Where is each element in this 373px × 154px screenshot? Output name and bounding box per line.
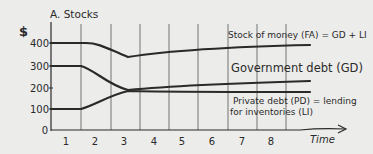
x-axis-label: Time <box>310 134 335 145</box>
x-tick: 4 <box>151 136 157 147</box>
x-tick: 8 <box>268 136 274 147</box>
y-tick: 400 <box>30 38 49 49</box>
fa-annotation: Stock of money (FA) = GD + LI <box>228 30 367 40</box>
series-fa-line <box>51 43 310 57</box>
pd-annotation-line2: for inventories (LI) <box>230 107 313 117</box>
x-tick: 6 <box>209 136 215 147</box>
stocks-chart: A. Stocks $ 400 300 200 100 0 1 2 3 4 5 <box>0 0 373 154</box>
y-tick: 0 <box>42 125 48 136</box>
gd-annotation: Government debt (GD) <box>231 61 363 75</box>
y-tick: 300 <box>30 61 49 72</box>
y-unit-label: $ <box>19 24 28 39</box>
pd-annotation-line1: Private debt (PD) = lending <box>233 96 357 106</box>
x-tick: 3 <box>121 136 127 147</box>
y-tick: 200 <box>30 83 49 94</box>
x-tick: 7 <box>239 136 245 147</box>
y-tick: 100 <box>30 104 49 115</box>
chart-title: A. Stocks <box>50 8 98 20</box>
x-tick-labels: 1 2 3 4 5 6 7 8 <box>63 136 274 147</box>
x-tick: 1 <box>63 136 69 147</box>
x-tick: 5 <box>179 136 185 147</box>
y-tick-labels: 400 300 200 100 0 <box>30 38 49 136</box>
x-tick: 2 <box>92 136 98 147</box>
